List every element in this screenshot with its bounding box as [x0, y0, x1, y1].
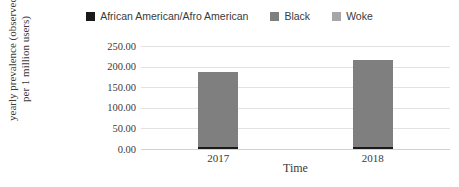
- y-axis-tick-label: 250.00: [86, 41, 136, 52]
- bar-segment[interactable]: [353, 60, 393, 147]
- bar-group: [141, 46, 296, 149]
- x-axis-title: Time: [141, 161, 450, 176]
- y-axis-tick-label: 0.00: [86, 144, 136, 155]
- bar-group: [296, 46, 451, 149]
- y-axis-tick-label: 50.00: [86, 123, 136, 134]
- y-axis-title: yearly prevalence (observed per 1 millio…: [6, 0, 36, 122]
- chart-legend: African American/Afro American Black Wok…: [0, 6, 459, 26]
- gridline: [141, 149, 450, 150]
- y-axis-tick-label: 150.00: [86, 82, 136, 93]
- legend-item-black: Black: [270, 10, 310, 22]
- legend-swatch-icon: [332, 12, 341, 21]
- y-axis-tick-labels: 0.0050.00100.00150.00200.00250.00: [86, 40, 136, 155]
- legend-item-woke: Woke: [332, 10, 373, 22]
- bar-stack[interactable]: [198, 72, 238, 149]
- plot-area: [141, 46, 450, 149]
- bar-stack[interactable]: [353, 60, 393, 149]
- legend-label: Woke: [346, 10, 373, 22]
- legend-swatch-icon: [270, 12, 279, 21]
- bar-series-container: [141, 46, 450, 149]
- y-axis-tick-label: 200.00: [86, 61, 136, 72]
- bar-segment[interactable]: [353, 147, 393, 149]
- y-axis-tick-label: 100.00: [86, 102, 136, 113]
- legend-item-african-american: African American/Afro American: [86, 10, 248, 22]
- legend-swatch-icon: [86, 12, 95, 21]
- bar-segment[interactable]: [198, 147, 238, 149]
- bar-chart: African American/Afro American Black Wok…: [0, 0, 459, 187]
- legend-label: African American/Afro American: [100, 10, 248, 22]
- legend-label: Black: [284, 10, 310, 22]
- bar-segment[interactable]: [198, 72, 238, 147]
